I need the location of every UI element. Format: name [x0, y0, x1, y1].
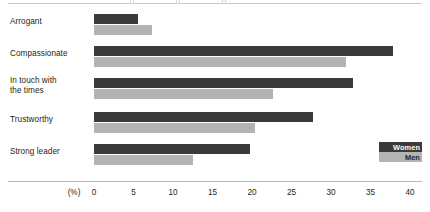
bar-men	[94, 123, 255, 133]
x-tick-label: 5	[119, 188, 149, 197]
bar-men	[94, 155, 193, 165]
category-label: In touch with the times	[10, 76, 57, 97]
bar-chart: ArrogantCompassionateIn touch with the t…	[0, 0, 430, 212]
category-label: Strong leader	[10, 147, 60, 157]
legend-label-women: Women	[393, 143, 420, 152]
legend-item-men: Men	[379, 152, 422, 162]
x-tick-label: 35	[356, 188, 386, 197]
chart-legend: Women Men	[379, 142, 422, 163]
category-label: Compassionate	[10, 49, 68, 59]
x-tick-label: 0	[79, 188, 109, 197]
x-tick-label: 30	[316, 188, 346, 197]
category-label: Trustworthy	[10, 115, 53, 125]
bar-women	[94, 78, 353, 88]
legend-label-men: Men	[405, 153, 420, 162]
x-tick-label: 25	[277, 188, 307, 197]
bar-women	[94, 112, 313, 122]
bar-men	[94, 89, 273, 99]
bar-women	[94, 144, 250, 154]
legend-item-women: Women	[379, 142, 422, 152]
x-tick-label: 15	[198, 188, 228, 197]
category-label: Arrogant	[10, 17, 42, 27]
x-axis-line	[8, 181, 422, 182]
bar-men	[94, 25, 152, 35]
bar-women	[94, 14, 138, 24]
bar-women	[94, 46, 393, 56]
x-tick-label: 20	[237, 188, 267, 197]
bar-men	[94, 57, 346, 67]
x-tick-label: 10	[158, 188, 188, 197]
x-tick-label: 40	[395, 188, 425, 197]
